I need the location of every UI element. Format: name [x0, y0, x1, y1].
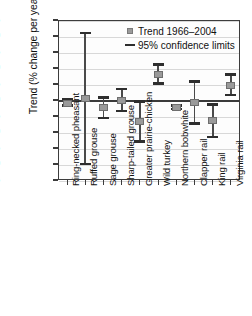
confidence-cap-lower: [225, 94, 236, 97]
x-tick-mark: [103, 180, 104, 185]
x-category-label: Wild turkey: [162, 140, 172, 186]
trend-marker: [208, 117, 217, 124]
trend-marker: [154, 71, 163, 78]
legend-label-trend: Trend 1966–2004: [138, 25, 217, 38]
y-tick-mark: [53, 99, 58, 100]
confidence-cap-lower: [153, 82, 164, 85]
confidence-cap-upper: [207, 103, 218, 106]
trend-marker: [117, 97, 126, 104]
x-tick-mark: [158, 180, 159, 185]
gridline: [59, 21, 239, 22]
confidence-cap-upper: [80, 32, 91, 35]
x-category-label: Ruffed grouse: [89, 128, 99, 186]
x-tick-mark: [67, 180, 68, 185]
x-category-label: Sage grouse: [108, 133, 118, 186]
y-tick-mark: [53, 179, 58, 180]
trend-marker: [99, 104, 108, 111]
legend-item-trend: Trend 1966–2004: [121, 24, 235, 38]
confidence-cap-upper: [98, 96, 109, 99]
trend-marker: [226, 82, 235, 89]
y-tick-mark: [53, 35, 58, 36]
x-category-label: Ring-necked pheasant: [71, 93, 81, 186]
x-category-label: King rail: [217, 153, 227, 186]
x-tick-mark: [194, 180, 195, 185]
y-tick-mark: [53, 67, 58, 68]
y-tick-mark: [53, 51, 58, 52]
y-tick-mark: [53, 115, 58, 116]
y-tick-mark: [53, 147, 58, 148]
trend-marker: [81, 95, 90, 102]
confidence-cap-lower: [98, 117, 109, 120]
chart-legend: Trend 1966–2004 95% confidence limits: [121, 24, 235, 52]
legend-label-confidence: 95% confidence limits: [138, 39, 235, 52]
y-tick-mark: [53, 19, 58, 20]
y-tick-mark: [53, 131, 58, 132]
x-category-label: Northern bobwhite: [180, 110, 190, 186]
y-tick-mark: [53, 83, 58, 84]
confidence-cap-upper: [153, 63, 164, 66]
chart-figure: Trend (% change per year) 2520151050−5−1…: [0, 0, 252, 316]
x-category-label: Clapper rail: [199, 139, 209, 186]
trend-marker: [190, 99, 199, 106]
x-tick-mark: [212, 180, 213, 185]
y-axis-title: Trend (% change per year): [27, 0, 39, 133]
y-tick-mark: [53, 163, 58, 164]
x-tick-mark: [121, 180, 122, 185]
x-category-label: Virginia rail: [235, 141, 245, 186]
confidence-cap-upper: [189, 80, 200, 83]
confidence-cap-lower: [189, 122, 200, 125]
x-tick-mark: [85, 180, 86, 185]
confidence-cap-upper: [116, 88, 127, 91]
x-category-label: Greater prairie-chicken: [144, 92, 154, 186]
x-tick-mark: [230, 180, 231, 185]
confidence-bar-icon: [121, 44, 138, 47]
x-tick-mark: [139, 180, 140, 185]
legend-item-confidence: 95% confidence limits: [121, 38, 235, 52]
x-category-label: Sharp-tailed grouse: [126, 105, 136, 186]
x-tick-mark: [176, 180, 177, 185]
confidence-cap-upper: [225, 73, 236, 76]
trend-marker-icon: [121, 28, 138, 34]
